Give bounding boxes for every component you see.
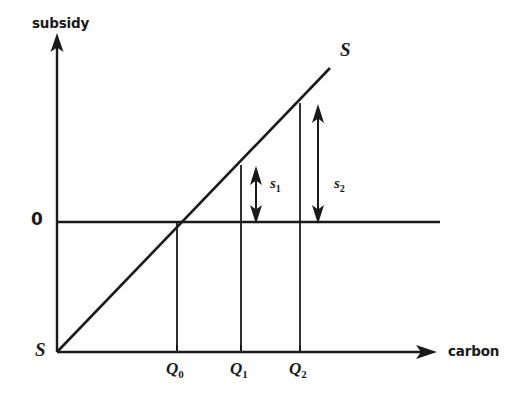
x-tick-label-q1-sub: 1: [242, 368, 248, 380]
curve-label-bottom: S: [35, 340, 46, 359]
x-tick-label-q0-base: Q: [166, 359, 178, 378]
gap-label-s2: s2: [334, 176, 345, 194]
x-tick-label-q0-sub: 0: [178, 368, 184, 380]
x-tick-label-q2-base: Q: [289, 359, 301, 378]
gap-label-s1-sub: 1: [276, 183, 281, 194]
x-axis: [57, 345, 437, 359]
x-tick-label-q2-sub: 2: [301, 368, 307, 380]
subsidy-schedule-line: [57, 68, 330, 352]
gap-arrow-s1: [250, 166, 262, 224]
x-tick-label-q2: Q2: [289, 360, 307, 380]
x-tick-label-q0: Q0: [166, 360, 184, 380]
x-tick-label-q1: Q1: [230, 360, 248, 380]
y-axis-zero-label: 0: [31, 211, 43, 228]
diagram-canvas: [0, 0, 519, 410]
y-axis: [51, 33, 64, 352]
x-axis-title: carbon: [448, 345, 499, 359]
y-axis-title: subsidy: [32, 17, 89, 31]
gap-label-s2-sub: 2: [340, 183, 345, 194]
economics-diagram-figure: subsidy carbon 0 S S Q0 Q1 Q2 s1 s2: [0, 0, 519, 410]
x-tick-label-q1-base: Q: [230, 359, 242, 378]
curve-label-top: S: [340, 40, 351, 59]
gap-label-s1: s1: [270, 176, 281, 194]
gap-arrow-s2: [312, 104, 324, 224]
